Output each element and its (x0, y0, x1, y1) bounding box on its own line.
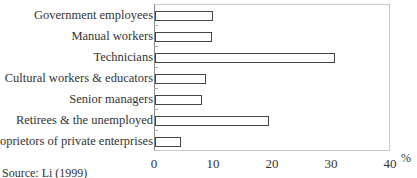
y-tick-mark (154, 88, 158, 89)
category-label: Manual workers (71, 29, 153, 43)
x-tick-label: 0 (151, 156, 158, 172)
x-tick-label: 20 (266, 156, 279, 172)
horizontal-bar-chart: Government employeesManual workersTechni… (0, 0, 417, 178)
category-label: Technicians (93, 50, 153, 64)
x-tick-label: 30 (325, 156, 338, 172)
bar (155, 53, 335, 63)
category-label: Cultural workers & educators (5, 71, 153, 85)
bar (155, 116, 269, 126)
category-label: Senior managers (69, 92, 153, 106)
category-label: Government employees (34, 8, 153, 22)
bar (155, 95, 202, 105)
category-label: Proprietors of private enterprises (0, 134, 153, 148)
plot-area (154, 4, 390, 151)
y-tick-mark (154, 46, 158, 47)
y-tick-mark (154, 25, 158, 26)
y-tick-mark (154, 109, 158, 110)
x-tick-label: 40 (384, 156, 397, 172)
x-tick-label: 10 (207, 156, 220, 172)
bar (155, 137, 181, 147)
source-note: Source: Li (1999) (2, 166, 87, 178)
category-label: Retirees & the unemployed (16, 113, 153, 127)
bar (155, 11, 213, 21)
y-tick-mark (154, 67, 158, 68)
bar (155, 32, 212, 42)
y-tick-mark (154, 130, 158, 131)
x-axis-unit: % (401, 151, 411, 166)
bar (155, 74, 206, 84)
